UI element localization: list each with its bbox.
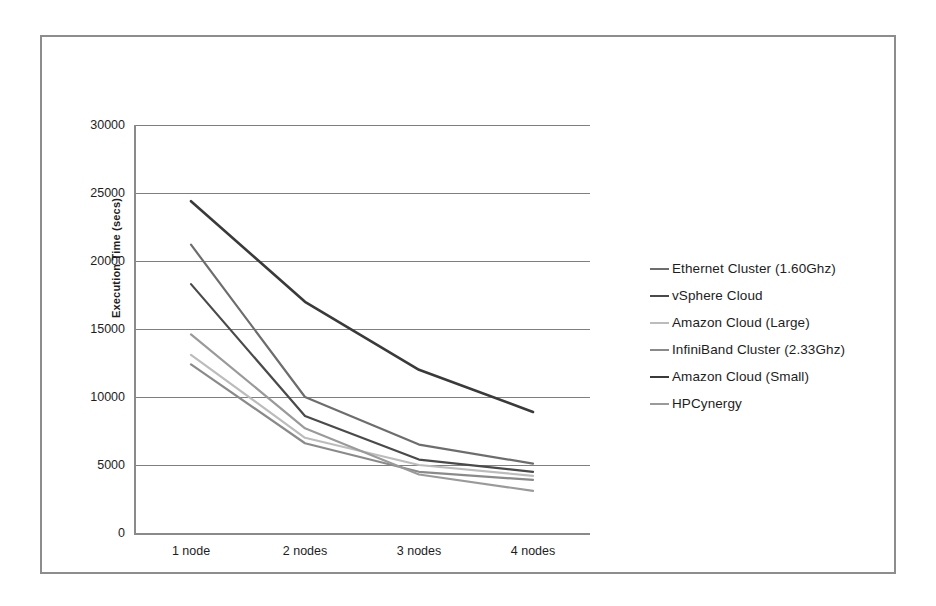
x-axis-tick-label: 3 nodes [397, 544, 441, 558]
chart-frame: Execution Time (secs) 300002500020000150… [40, 35, 896, 574]
gridline [134, 533, 590, 535]
plot-area: 300002500020000150001000050000 1 node2 n… [134, 125, 590, 533]
y-axis-tick-label: 5000 [97, 458, 125, 472]
legend-swatch-line-icon [650, 376, 669, 378]
x-axis-tick-label: 4 nodes [511, 544, 555, 558]
series-lines [134, 125, 590, 533]
legend-swatch-line-icon [650, 322, 669, 324]
legend-swatch-line-icon [650, 349, 669, 351]
y-axis-tick-label: 25000 [90, 186, 125, 200]
y-axis-tick-label: 20000 [90, 254, 125, 268]
y-axis-tick-label: 15000 [90, 322, 125, 336]
legend-item-label: Ethernet Cluster (1.60Ghz) [672, 261, 836, 276]
chart-plot-wrapper: Execution Time (secs) 300002500020000150… [42, 37, 894, 572]
legend-item[interactable]: Amazon Cloud (Large) [650, 309, 900, 336]
legend-item-label: Amazon Cloud (Large) [672, 315, 810, 330]
legend-item-label: vSphere Cloud [672, 288, 763, 303]
legend-item[interactable]: InfiniBand Cluster (2.33Ghz) [650, 336, 900, 363]
legend-item[interactable]: vSphere Cloud [650, 282, 900, 309]
y-axis-tick-label: 30000 [90, 118, 125, 132]
legend-swatch-line-icon [650, 295, 669, 297]
x-axis-tick-label: 1 node [172, 544, 210, 558]
legend-item[interactable]: Amazon Cloud (Small) [650, 363, 900, 390]
legend-swatch-line-icon [650, 403, 669, 405]
legend-item-label: InfiniBand Cluster (2.33Ghz) [672, 342, 845, 357]
series-line [191, 364, 533, 480]
series-line [191, 201, 533, 412]
chart-legend: Ethernet Cluster (1.60Ghz)vSphere CloudA… [650, 255, 900, 417]
x-axis-tick-label: 2 nodes [283, 544, 327, 558]
legend-swatch-line-icon [650, 268, 669, 270]
legend-item-label: HPCynergy [672, 396, 742, 411]
legend-item[interactable]: Ethernet Cluster (1.60Ghz) [650, 255, 900, 282]
legend-item-label: Amazon Cloud (Small) [672, 369, 809, 384]
series-line [191, 245, 533, 464]
y-axis-tick-label: 0 [118, 526, 125, 540]
legend-item[interactable]: HPCynergy [650, 390, 900, 417]
y-axis-tick-label: 10000 [90, 390, 125, 404]
